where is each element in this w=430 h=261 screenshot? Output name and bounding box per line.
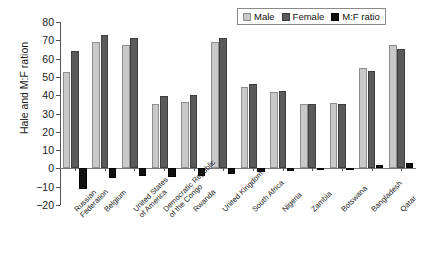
x-tick-mark (342, 168, 343, 171)
bar-m-f-ratio (79, 168, 87, 189)
chart-legend: Male Female M:F ratio (237, 8, 386, 25)
bar-female (338, 104, 346, 168)
x-tick-mark (372, 168, 373, 171)
bar-m-f-ratio (109, 168, 117, 177)
y-tick-label: 60 (42, 53, 54, 65)
x-tick-mark (283, 168, 284, 171)
bar-male (270, 92, 278, 168)
bar-groups (60, 22, 416, 205)
x-tick-mark (164, 168, 165, 171)
bar-m-f-ratio (376, 165, 384, 168)
y-tick-label: 50 (42, 71, 54, 83)
bar-group (90, 22, 120, 205)
bar-male (241, 87, 249, 168)
bar-female (249, 84, 257, 168)
bar-m-f-ratio (168, 168, 176, 176)
bar-female (397, 49, 405, 168)
plot-area: −20−1001020304050607080 (60, 22, 416, 205)
legend-item-female: Female (282, 11, 325, 22)
legend-label-female: Female (293, 11, 325, 22)
bar-female (219, 38, 227, 169)
bar-male (330, 103, 338, 168)
x-axis-labels: Russian FederationBelgiumUnited States o… (60, 208, 416, 261)
bar-male (63, 72, 71, 168)
y-tick-label: 0 (48, 162, 54, 174)
legend-item-mf-ratio: M:F ratio (331, 11, 379, 22)
bar-female (279, 91, 287, 169)
bar-group (268, 22, 298, 205)
legend-swatch-mf-ratio-icon (331, 13, 339, 21)
bar-female (368, 71, 376, 168)
x-tick-mark (134, 168, 135, 171)
bar-male (181, 102, 189, 169)
legend-item-male: Male (243, 11, 275, 22)
x-tick-mark (253, 168, 254, 171)
y-tick-label: 30 (42, 108, 54, 120)
bar-m-f-ratio (346, 168, 354, 170)
y-tick-mark (56, 205, 60, 206)
bar-male (359, 68, 367, 169)
x-tick-mark (401, 168, 402, 171)
x-tick-mark (312, 168, 313, 171)
chart-root: Hale and M:F ration −20−1001020304050607… (0, 0, 430, 261)
bar-group (327, 22, 357, 205)
bar-female (308, 104, 316, 168)
bar-male (300, 104, 308, 168)
bar-group (119, 22, 149, 205)
x-tick-mark (75, 168, 76, 171)
y-tick-label: −20 (36, 199, 54, 211)
y-axis-title: Hale and M:F ration (18, 18, 30, 158)
bar-m-f-ratio (317, 168, 325, 170)
bar-group (386, 22, 416, 205)
bar-male (122, 45, 130, 169)
y-tick-label: −10 (36, 181, 54, 193)
bar-female (160, 96, 168, 168)
bar-male (211, 42, 219, 168)
bar-female (130, 38, 138, 168)
bar-group (297, 22, 327, 205)
bar-male (152, 104, 160, 168)
bar-male (92, 42, 100, 168)
legend-swatch-male-icon (243, 13, 251, 21)
y-tick-label: 20 (42, 126, 54, 138)
legend-label-mf-ratio: M:F ratio (342, 11, 379, 22)
x-tick-mark (105, 168, 106, 171)
y-tick-label: 40 (42, 89, 54, 101)
legend-label-male: Male (254, 11, 275, 22)
bar-group (357, 22, 387, 205)
legend-swatch-female-icon (282, 13, 290, 21)
bar-male (389, 45, 397, 169)
bar-m-f-ratio (139, 168, 147, 175)
bar-m-f-ratio (406, 163, 414, 168)
bar-m-f-ratio (228, 168, 236, 173)
bar-female (71, 51, 79, 168)
bar-m-f-ratio (287, 168, 295, 171)
x-tick-mark (194, 168, 195, 171)
y-tick-label: 10 (42, 144, 54, 156)
bar-female (190, 95, 198, 168)
y-tick-label: 80 (42, 16, 54, 28)
bar-female (101, 35, 109, 169)
bar-group (60, 22, 90, 205)
y-tick-label: 70 (42, 34, 54, 46)
